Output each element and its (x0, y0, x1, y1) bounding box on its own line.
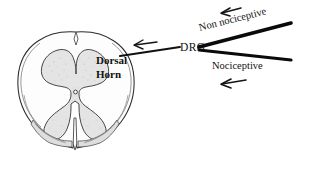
arrow-dorsal-horn-entry (134, 40, 157, 49)
drg-label: DRG (180, 41, 205, 53)
dorsal-root-proximal-line (120, 47, 180, 56)
diagram-canvas (0, 0, 309, 171)
nociceptive-afferent-line (199, 50, 291, 60)
arrow-nociceptive-input (221, 79, 246, 88)
central-canal (74, 90, 78, 94)
dorsal-horn-label-line2: Horn (96, 68, 127, 82)
nociceptive-label: Nociceptive (212, 60, 263, 71)
spinal-cord-diagram: DRG Dorsal Horn Non nociceptive Nocicept… (0, 0, 309, 171)
dorsal-horn-label: Dorsal Horn (96, 54, 127, 82)
ventral-median-fissure (73, 118, 77, 150)
spinal-cord-cross-section (18, 32, 134, 150)
dorsal-horn-label-line1: Dorsal (96, 54, 127, 68)
